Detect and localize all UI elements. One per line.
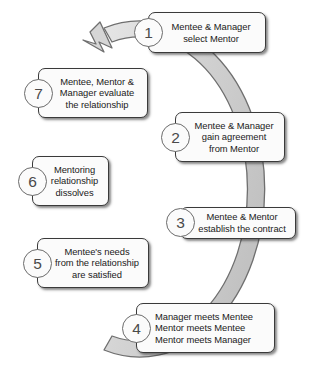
step-box-5: Mentee's needsfrom the relationshipare s… (37, 238, 149, 288)
step-box-7: Mentee, Mentor &Manager evaluatethe rela… (38, 68, 148, 118)
step-box-3: Mentee & Mentorestablish the contract (180, 207, 296, 239)
step-2-line-1: Mentee & Manager (195, 120, 274, 132)
step-6-line-2: relationship (51, 175, 98, 187)
mentoring-cycle-diagram: Mentee & Managerselect Mentor1Mentee & M… (0, 0, 309, 381)
step-5-line-2: from the relationship (55, 257, 139, 269)
step-5-line-1: Mentee's needs (64, 246, 129, 258)
step-number-badge-5: 5 (23, 249, 52, 278)
step-2-line-3: from Mentor (209, 143, 259, 155)
step-number-badge-7: 7 (24, 79, 53, 108)
step-7-line-1: Mentee, Mentor & (60, 76, 134, 88)
step-3-line-2: establish the contract (198, 223, 286, 235)
step-6-line-3: dissolves (55, 187, 93, 199)
step-7-line-3: the relationship (66, 99, 129, 111)
step-5-line-3: are satisfied (72, 269, 122, 281)
step-number-badge-3: 3 (166, 208, 195, 237)
step-number-badge-6: 6 (18, 167, 47, 196)
step-number-badge-2: 2 (161, 123, 190, 152)
step-6-line-1: Mentoring (54, 164, 95, 176)
step-4-line-2: Mentor meets Mentee (155, 322, 245, 334)
step-number-badge-4: 4 (122, 314, 151, 343)
step-4-line-1: Manager meets Mentee (155, 311, 253, 323)
step-box-1: Mentee & Managerselect Mentor (148, 12, 266, 53)
step-1-line-1: Mentee & Manager (172, 21, 251, 33)
step-1-line-2: select Mentor (183, 33, 239, 45)
step-2-line-2: gain agreement (202, 131, 266, 143)
step-box-4: Manager meets MenteeMentor meets MenteeM… (136, 303, 275, 353)
step-box-2: Mentee & Managergain agreementfrom Mento… (175, 112, 285, 162)
step-number-badge-1: 1 (134, 18, 163, 47)
step-7-line-2: Manager evaluate (60, 87, 134, 99)
step-3-line-1: Mentee & Mentor (206, 211, 277, 223)
step-4-line-3: Mentor meets Manager (155, 334, 251, 346)
